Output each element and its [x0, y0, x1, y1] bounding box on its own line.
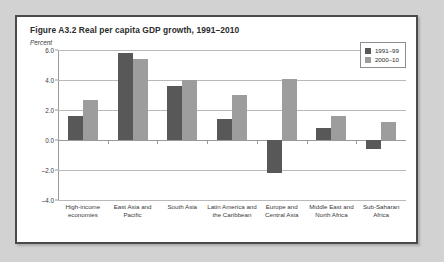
bar: [267, 140, 282, 173]
bar: [381, 122, 396, 140]
x-axis-tick-mark: [108, 140, 109, 144]
bar-group: [257, 50, 307, 200]
bar: [217, 119, 232, 140]
x-axis-category-labels: High-income economiesEast Asia and Pacif…: [58, 203, 406, 243]
legend-item-label: 1991–99: [375, 47, 399, 54]
x-axis-category-label: South Asia: [157, 203, 207, 211]
x-axis-category-label: Latin America and the Caribbean: [207, 203, 257, 219]
x-axis-tick-mark: [58, 140, 59, 144]
y-axis-tick-label: –2.0: [42, 167, 54, 174]
y-axis-tick-label: –4.0: [42, 197, 54, 204]
bar-group: [157, 50, 207, 200]
y-axis-tick-label: 2.0: [45, 107, 54, 114]
bar: [232, 95, 247, 140]
x-axis-tick-mark: [207, 140, 208, 144]
bar-group: [58, 50, 108, 200]
x-axis-category-label: Middle East and North Africa: [307, 203, 357, 219]
x-axis-tick-mark: [257, 140, 258, 144]
bar-group: [108, 50, 158, 200]
bar: [167, 86, 182, 140]
bar: [68, 116, 83, 140]
bar: [282, 79, 297, 141]
x-axis-category-label: Sub-Saharan Africa: [356, 203, 406, 219]
bar-series-container: [58, 50, 406, 200]
x-axis-category-label: High-income economies: [58, 203, 108, 219]
legend-swatch-icon: [365, 57, 371, 63]
bar: [83, 100, 98, 141]
legend-item: 1991–99: [365, 46, 399, 55]
bar: [118, 53, 133, 140]
x-axis-tick-mark: [307, 140, 308, 144]
legend-swatch-icon: [365, 48, 371, 54]
bar: [316, 128, 331, 140]
bar-group: [307, 50, 357, 200]
legend-item: 2000–10: [365, 55, 399, 64]
bar-group: [207, 50, 257, 200]
legend-item-label: 2000–10: [375, 56, 399, 63]
bar: [133, 59, 148, 140]
figure-frame: Figure A3.2 Real per capita GDP growth, …: [15, 15, 418, 244]
y-axis-tick-label: 0.0: [45, 137, 54, 144]
plot-area: 6.04.02.00.0–2.0–4.0: [58, 50, 406, 200]
bar-group: [356, 50, 406, 200]
x-axis-category-label: East Asia and Pacific: [108, 203, 158, 219]
bar: [366, 140, 381, 149]
bar: [331, 116, 346, 140]
chart-legend: 1991–992000–10: [360, 42, 406, 68]
page-title: Figure A3.2 Real per capita GDP growth, …: [30, 25, 239, 35]
bar: [182, 80, 197, 140]
x-axis-category-label: Europe and Central Asia: [257, 203, 307, 219]
gridline: [58, 200, 406, 201]
x-axis-tick-mark: [157, 140, 158, 144]
y-axis-tick-label: 4.0: [45, 77, 54, 84]
x-axis-tick-mark: [356, 140, 357, 144]
y-axis-tick-label: 6.0: [45, 47, 54, 54]
axis-units-label: Percent: [30, 39, 52, 46]
